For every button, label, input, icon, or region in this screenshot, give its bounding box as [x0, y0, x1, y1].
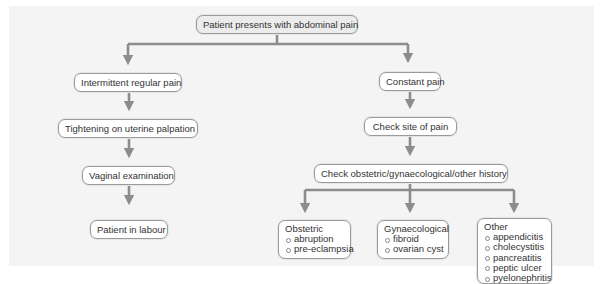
list-item: pre-eclampsia: [285, 244, 344, 254]
node-constant-pain: Constant pain: [379, 72, 441, 91]
list-item: ovarian cyst: [384, 244, 442, 254]
node-gynaecological: Gynaecological fibroid ovarian cyst: [377, 220, 449, 259]
node-check-site-of-pain: Check site of pain: [364, 117, 457, 136]
node-intermittent-regular-pain: Intermittent regular pain: [74, 73, 182, 92]
node-check-history: Check obstetric/gynaecological/other his…: [314, 164, 508, 183]
node-patient-in-labour: Patient in labour: [90, 220, 168, 239]
node-root: Patient presents with abdominal pain: [196, 15, 358, 34]
list-item: pyelonephritis: [484, 273, 545, 283]
node-tightening-uterine-palpation: Tightening on uterine palpation: [58, 119, 198, 138]
node-obstetric: Obstetric abruption pre-eclampsia: [278, 220, 351, 259]
node-vaginal-examination: Vaginal examination: [82, 166, 175, 185]
node-other: Other appendicitis cholecystitis pancrea…: [477, 218, 552, 284]
